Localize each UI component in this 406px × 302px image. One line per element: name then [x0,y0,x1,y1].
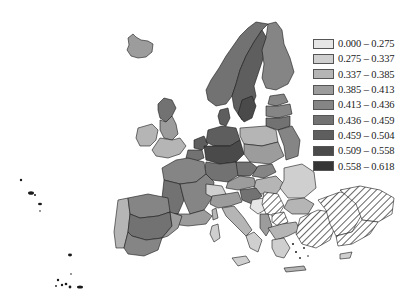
region-italy-south [246,232,262,252]
region-poland-south [244,142,284,164]
legend-label: 0.558 – 0.618 [338,161,394,172]
region-iceland [127,34,153,58]
legend-item: 0.558 – 0.618 [313,158,406,173]
legend-swatch [313,39,334,49]
region-italy-central [222,206,252,236]
region-corsica [212,208,218,220]
legend-item: 0.275 – 0.337 [313,51,406,66]
legend-item: 0.385 – 0.413 [313,82,406,97]
legend-swatch [313,100,334,110]
region-estonia [268,94,288,106]
legend: 0.000 – 0.275 0.275 – 0.337 0.337 – 0.38… [313,36,406,174]
legend-item: 0.413 – 0.436 [313,97,406,112]
legend-item: 0.509 – 0.558 [313,143,406,158]
legend-swatch [313,54,334,64]
legend-swatch [313,146,334,156]
region-romania [280,164,316,198]
legend-label: 0.337 – 0.385 [338,69,394,80]
legend-item: 0.337 – 0.385 [313,67,406,82]
legend-label: 0.000 – 0.275 [338,38,394,49]
legend-item: 0.459 – 0.504 [313,128,406,143]
region-denmark [218,108,230,126]
region-greece-south [272,238,290,258]
region-poland-north [240,126,278,146]
legend-label: 0.459 – 0.504 [338,130,394,141]
atlantic-islands [20,179,83,289]
region-crete [284,266,306,272]
region-greece-north [268,222,300,240]
legend-swatch [313,69,334,79]
region-cyprus [340,252,352,259]
legend-swatch [313,130,334,140]
legend-swatch [313,115,334,125]
region-bulgaria [284,198,314,214]
legend-label: 0.385 – 0.413 [338,84,394,95]
region-montenegro-albania [260,214,272,236]
region-ireland [136,124,158,146]
legend-label: 0.436 – 0.459 [338,115,394,126]
region-sardinia [210,224,220,242]
legend-swatch [313,161,334,171]
legend-item: 0.436 – 0.459 [313,112,406,127]
legend-label: 0.509 – 0.558 [338,145,394,156]
legend-item: 0.000 – 0.275 [313,36,406,51]
region-sicily [232,256,250,266]
region-latvia [266,104,292,118]
region-england-south [152,138,186,158]
legend-swatch [313,85,334,95]
region-finland [262,22,294,90]
legend-label: 0.413 – 0.436 [338,99,394,110]
legend-label: 0.275 – 0.337 [338,53,394,64]
